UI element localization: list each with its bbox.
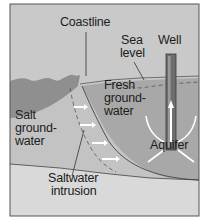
label-well: Well	[158, 34, 181, 47]
label-salt-3: water	[15, 135, 45, 148]
label-fresh-3: water	[104, 105, 134, 118]
label-aquifer: Aquifer	[150, 139, 188, 152]
label-intrusion-2: intrusion	[51, 185, 96, 198]
label-sea-level-2: level	[120, 47, 145, 60]
label-coastline: Coastline	[60, 16, 110, 29]
